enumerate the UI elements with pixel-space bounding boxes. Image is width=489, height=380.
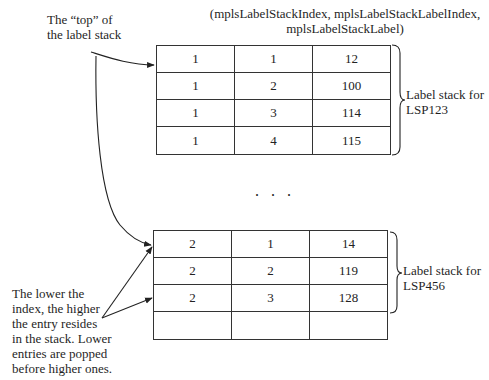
stack-index-cell: 2 — [154, 285, 232, 312]
table-row: 2 3 128 — [154, 285, 388, 312]
brace-label-lsp456-line2: LSP456 — [403, 278, 481, 293]
bottom-note-line4: in the stack. Lower — [12, 331, 112, 346]
table-row: 2 1 14 — [154, 231, 388, 258]
stack-index-cell: 1 — [157, 46, 235, 73]
label-index-cell: 4 — [235, 127, 313, 155]
label-cell: 14 — [310, 231, 388, 258]
label-index-cell: 1 — [232, 231, 310, 258]
bottom-note-line1: The lower the — [12, 286, 112, 301]
label-index-cell: 3 — [232, 285, 310, 312]
stack-index-cell: 2 — [154, 231, 232, 258]
label-stack-table-lsp456: 2 1 14 2 2 119 2 3 128 — [153, 230, 388, 340]
brace-lsp456-icon — [390, 232, 402, 313]
label-index-cell: 1 — [235, 46, 313, 73]
label-cell: 114 — [313, 100, 391, 127]
brace-label-lsp123-line1: Label stack for — [406, 87, 484, 102]
table-row — [154, 312, 388, 340]
stack-index-cell: 1 — [157, 73, 235, 100]
table-row: 1 2 100 — [157, 73, 391, 100]
brace-label-lsp123: Label stack for LSP123 — [406, 87, 484, 117]
ellipsis: . . . — [255, 182, 295, 200]
brace-label-lsp456-line1: Label stack for — [403, 263, 481, 278]
brace-lsp123-icon — [392, 45, 405, 155]
label-index-cell — [232, 312, 310, 340]
arrow-to-top-lsp123 — [91, 52, 154, 65]
table-row: 1 4 115 — [157, 127, 391, 155]
brace-label-lsp123-line2: LSP123 — [406, 102, 484, 117]
label-cell: 100 — [313, 73, 391, 100]
bottom-note-line6: before higher ones. — [12, 361, 112, 376]
label-cell: 119 — [310, 258, 388, 285]
label-cell: 128 — [310, 285, 388, 312]
top-of-stack-note: The “top” of the label stack — [47, 12, 121, 42]
label-index-cell: 2 — [232, 258, 310, 285]
arrow-to-top-lsp456 — [96, 56, 151, 245]
bottom-note-line2: index, the higher — [12, 301, 112, 316]
top-note-line2: the label stack — [47, 27, 121, 42]
label-cell — [310, 312, 388, 340]
stack-index-cell — [154, 312, 232, 340]
stack-index-cell: 1 — [157, 127, 235, 155]
bottom-note-line5: entries are popped — [12, 346, 112, 361]
index-order-note: The lower the index, the higher the entr… — [12, 286, 112, 376]
bottom-note-line3: the entry resides — [12, 316, 112, 331]
label-cell: 115 — [313, 127, 391, 155]
label-stack-table-lsp123: 1 1 12 1 2 100 1 3 114 1 4 115 — [156, 45, 391, 155]
top-note-line1: The “top” of — [47, 12, 121, 27]
column-header: (mplsLabelStackIndex, mplsLabelStackLabe… — [205, 6, 485, 36]
brace-label-lsp456: Label stack for LSP456 — [403, 263, 481, 293]
label-index-cell: 2 — [235, 73, 313, 100]
stack-index-cell: 2 — [154, 258, 232, 285]
column-header-line1: (mplsLabelStackIndex, mplsLabelStackLabe… — [205, 6, 485, 21]
label-cell: 12 — [313, 46, 391, 73]
stack-index-cell: 1 — [157, 100, 235, 127]
table-row: 2 2 119 — [154, 258, 388, 285]
label-index-cell: 3 — [235, 100, 313, 127]
table-row: 1 3 114 — [157, 100, 391, 127]
table-row: 1 1 12 — [157, 46, 391, 73]
column-header-line2: mplsLabelStackLabel) — [205, 21, 485, 36]
